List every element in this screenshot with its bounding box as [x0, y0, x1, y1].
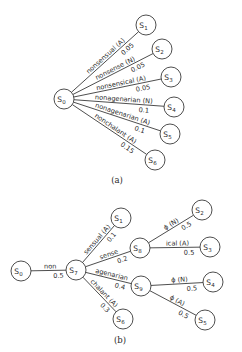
state-node-s3: S3 — [161, 67, 181, 87]
edge-probability: 0.5 — [53, 272, 64, 280]
state-node-s2: S2 — [192, 200, 212, 220]
state-node-s1: S1 — [111, 208, 131, 228]
diagram-caption-a: (a) — [111, 175, 123, 185]
edge-label: agenarian — [95, 267, 129, 283]
diagram-caption-b: (b) — [114, 335, 126, 345]
edge-probability: 0.5 — [180, 220, 193, 232]
state-node-s0: S0 — [54, 89, 74, 109]
state-node-s5: S5 — [195, 310, 215, 330]
state-node-s1: S1 — [136, 15, 156, 35]
state-node-s0: S0 — [11, 261, 31, 281]
edge-label: ϕ (N) — [162, 216, 180, 231]
edge-probability: 0.1 — [138, 106, 149, 115]
edge-probability: 0.1 — [133, 124, 145, 135]
edge-probability: 0.5 — [186, 284, 197, 293]
state-node-s6: S6 — [145, 150, 165, 170]
edge-probability: 0.4 — [114, 281, 126, 291]
edge-probability: 0.05 — [135, 83, 151, 94]
state-node-s4: S4 — [164, 97, 184, 117]
state-node-s4: S4 — [203, 272, 223, 292]
finite-state-diagram: nonsensual (A)0.05nonsense (N)0.05nonsen… — [0, 0, 242, 352]
state-node-s3: S3 — [200, 237, 220, 257]
edge-label: ical (A) — [166, 239, 189, 247]
edge-label: ϕ (N) — [171, 275, 188, 284]
state-node-s5: S5 — [160, 124, 180, 144]
state-node-s8: S8 — [130, 238, 150, 258]
state-node-s9: S9 — [131, 276, 151, 296]
state-node-s7: S7 — [66, 260, 86, 280]
edge-label: non — [44, 262, 57, 270]
state-node-s6: S6 — [113, 309, 133, 329]
state-node-s2: S2 — [152, 39, 172, 59]
edge-label: ϕ (A) — [168, 293, 186, 308]
edge-probability: 0.5 — [184, 249, 195, 257]
